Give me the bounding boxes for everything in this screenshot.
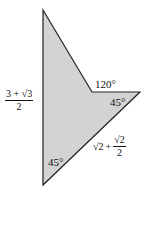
bottom-angle-label: 45° [48, 157, 63, 168]
side-whole-term: √2 [93, 142, 104, 152]
side-fraction-numerator: √2 [113, 135, 126, 147]
left-side-numerator: 3 + √3 [5, 89, 33, 101]
side-fraction-denominator: 2 [117, 147, 122, 158]
left-side-length-label: 3 + √3 2 [5, 89, 33, 112]
lower-right-side-length-label: √2 + √2 2 [93, 135, 126, 158]
right-tip-angle-label: 45° [110, 97, 125, 108]
left-side-denominator: 2 [17, 101, 22, 112]
plus-sign: + [106, 142, 112, 152]
notch-angle-label: 120° [95, 79, 116, 90]
